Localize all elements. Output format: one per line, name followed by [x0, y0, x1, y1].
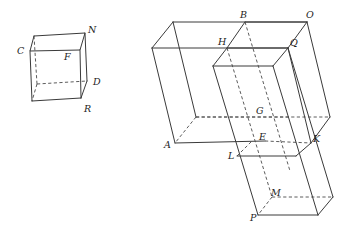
inner-top-left-slant: [227, 22, 245, 48]
big-back-right-vertical: [307, 22, 330, 117]
inner-hidden-edge-E-stub: [237, 141, 252, 156]
figure-canvas: C N F D R: [0, 0, 340, 231]
small-box-edge-bottom-right: [81, 81, 87, 98]
inner-hidden-vertical-B-to-E: [245, 22, 290, 171]
label-D: D: [92, 76, 101, 87]
label-C: C: [17, 45, 25, 56]
label-L: L: [227, 150, 234, 161]
label-G: G: [256, 105, 264, 116]
small-box-edge-bottom-front: [32, 98, 81, 101]
label-H: H: [217, 36, 227, 47]
label-K: K: [312, 133, 321, 144]
small-box-hidden-edge-bottom-back-left: [32, 84, 37, 101]
label-P: P: [249, 212, 257, 223]
label-Q: Q: [290, 37, 298, 48]
big-top-left-edge: [152, 22, 173, 48]
big-bottom-front-edge-A-to-E: [175, 141, 265, 143]
label-O: O: [306, 9, 314, 20]
small-box-top-face: [30, 33, 85, 51]
small-box-edge-right-front: [80, 50, 81, 98]
label-F: F: [63, 51, 71, 62]
geometry-figure: C N F D R: [0, 0, 340, 231]
inner-face-edge-left: [213, 48, 227, 66]
small-box-edge-right-back: [85, 33, 87, 81]
label-A: A: [163, 139, 171, 150]
small-box-hidden-edge-bottom-back: [37, 81, 87, 84]
big-hidden-bottom-left-edge: [175, 117, 196, 143]
label-N: N: [87, 24, 97, 35]
inner-bottom-right-slant: [318, 197, 333, 215]
small-box-hidden-edge-vertical-back-left: [34, 36, 37, 84]
label-B: B: [239, 9, 247, 20]
inner-vertical-left: [213, 66, 258, 215]
inner-hidden-edge-M-to-P: [258, 197, 272, 215]
big-front-left-vertical: [152, 48, 175, 143]
big-hidden-bottom-front-edge-E-to-K: [265, 141, 311, 143]
label-R: R: [83, 103, 91, 114]
large-composite-box: [152, 22, 333, 215]
small-box-edge-left-front: [30, 51, 32, 101]
label-E: E: [258, 131, 266, 142]
inner-hidden-vertical-H-to-L: [227, 48, 272, 197]
small-box: [30, 33, 87, 101]
inner-face-edge-right: [273, 48, 288, 66]
label-M: M: [270, 187, 281, 198]
big-back-left-vertical: [173, 22, 196, 117]
